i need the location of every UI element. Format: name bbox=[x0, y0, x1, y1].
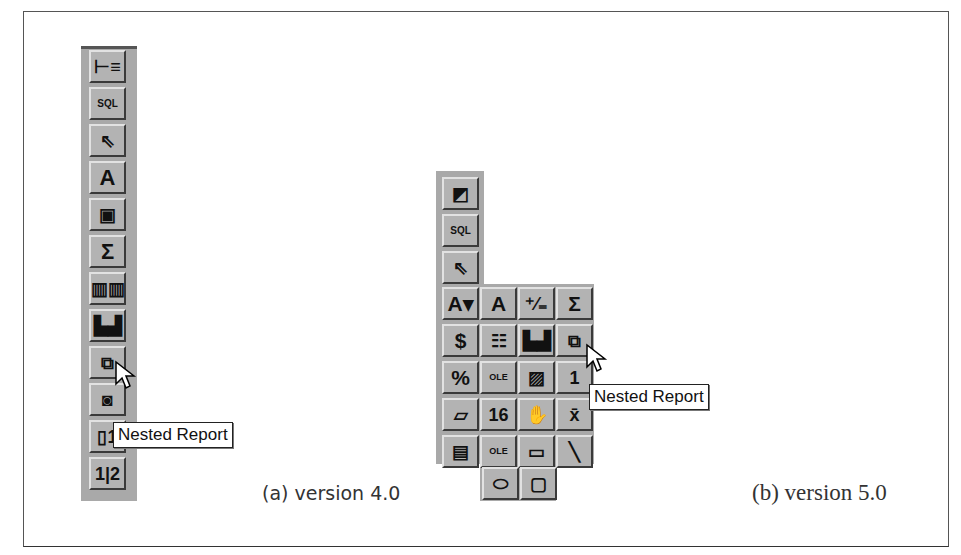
plus-minus-icon: ⁺⁄₌ bbox=[525, 295, 548, 313]
text-button[interactable]: A bbox=[480, 287, 517, 320]
rounded-rect-icon: ▢ bbox=[530, 475, 547, 493]
mouse-cursor-icon bbox=[114, 360, 138, 392]
tooltip-nested-report-v4: Nested Report bbox=[113, 422, 233, 448]
ole-object-icon: OLE bbox=[489, 447, 508, 456]
mean-icon: x̄ bbox=[569, 406, 579, 424]
rectangle-icon: ▭ bbox=[528, 443, 545, 461]
currency-icon: $ bbox=[455, 330, 467, 351]
line-icon: ╲ bbox=[569, 443, 580, 461]
field-box-icon: ▣ bbox=[99, 206, 116, 224]
insert-table-icon: ▤ bbox=[452, 443, 469, 461]
page-number-icon: 1|2 bbox=[95, 465, 120, 483]
sum-icon: Σ bbox=[101, 241, 114, 263]
sql-button[interactable]: SQL bbox=[442, 214, 479, 247]
sql-button[interactable]: SQL bbox=[89, 87, 126, 120]
ellipse-icon: ⬭ bbox=[493, 475, 508, 493]
ole-button[interactable]: OLE bbox=[480, 361, 517, 394]
query-button[interactable]: ⊢≡ bbox=[89, 50, 126, 83]
picture-icon: ▨ bbox=[528, 369, 545, 387]
pointer-icon: ⇖ bbox=[453, 259, 468, 277]
rectangle-button[interactable]: ▭ bbox=[518, 435, 555, 468]
sum-icon: Σ bbox=[568, 293, 581, 314]
columns-icon: ▥▥ bbox=[91, 280, 125, 298]
chart-button[interactable]: ▙▟ bbox=[89, 309, 126, 342]
ellipse-button[interactable]: ⬭ bbox=[482, 467, 519, 500]
plus-minus-button[interactable]: ⁺⁄₌ bbox=[518, 287, 555, 320]
columns-button[interactable]: ▥▥ bbox=[89, 272, 126, 305]
percent-button[interactable]: % bbox=[442, 361, 479, 394]
calendar-button[interactable]: 16 bbox=[480, 398, 517, 431]
insert-table-button[interactable]: ▤ bbox=[442, 435, 479, 468]
hand-button[interactable]: ✋ bbox=[518, 398, 555, 431]
text-button[interactable]: A bbox=[89, 161, 126, 194]
text-dropdown-button[interactable]: A▾ bbox=[442, 287, 479, 320]
sql-icon: SQL bbox=[97, 99, 118, 109]
text-icon: A bbox=[491, 293, 506, 314]
line-button[interactable]: ╲ bbox=[556, 435, 593, 468]
text-dropdown-icon: A▾ bbox=[447, 293, 473, 314]
page-icon: 1 bbox=[569, 369, 579, 387]
table-icon: ☷ bbox=[491, 332, 507, 350]
hand-icon: ✋ bbox=[526, 406, 548, 424]
mean-button[interactable]: x̄ bbox=[556, 398, 593, 431]
preview-button[interactable]: ◩ bbox=[442, 177, 479, 210]
tooltip-nested-report-v5: Nested Report bbox=[589, 384, 709, 410]
eraser-icon: ▱ bbox=[454, 406, 468, 424]
chart-icon: ▙▟ bbox=[523, 332, 551, 350]
pointer-button[interactable]: ⇖ bbox=[89, 124, 126, 157]
ole-object-button[interactable]: OLE bbox=[480, 435, 517, 468]
trash-icon: ◙ bbox=[102, 391, 113, 409]
page-number-button[interactable]: 1|2 bbox=[89, 457, 126, 490]
sum-button[interactable]: Σ bbox=[556, 287, 593, 320]
pointer-icon: ⇖ bbox=[100, 132, 115, 150]
percent-icon: % bbox=[451, 367, 470, 388]
ole-icon: OLE bbox=[489, 373, 508, 382]
chart-button[interactable]: ▙▟ bbox=[518, 324, 555, 357]
table-button[interactable]: ☷ bbox=[480, 324, 517, 357]
preview-icon: ◩ bbox=[452, 185, 469, 203]
calendar-icon: 16 bbox=[488, 406, 508, 424]
text-icon: A bbox=[100, 167, 116, 189]
mouse-cursor-icon bbox=[585, 343, 609, 375]
nested-report-icon: ⧉ bbox=[101, 354, 114, 372]
picture-button[interactable]: ▨ bbox=[518, 361, 555, 394]
eraser-button[interactable]: ▱ bbox=[442, 398, 479, 431]
currency-button[interactable]: $ bbox=[442, 324, 479, 357]
caption-version-4: (a) version 4.0 bbox=[262, 482, 400, 504]
pointer-button[interactable]: ⇖ bbox=[442, 251, 479, 284]
sql-icon: SQL bbox=[450, 226, 471, 236]
caption-version-5: (b) version 5.0 bbox=[752, 480, 887, 506]
nested-report-icon: ⧉ bbox=[568, 332, 581, 350]
field-box-button[interactable]: ▣ bbox=[89, 198, 126, 231]
chart-icon: ▙▟ bbox=[94, 317, 122, 335]
sum-button[interactable]: Σ bbox=[89, 235, 126, 268]
query-icon: ⊢≡ bbox=[94, 58, 121, 76]
rounded-rect-button[interactable]: ▢ bbox=[520, 467, 557, 500]
